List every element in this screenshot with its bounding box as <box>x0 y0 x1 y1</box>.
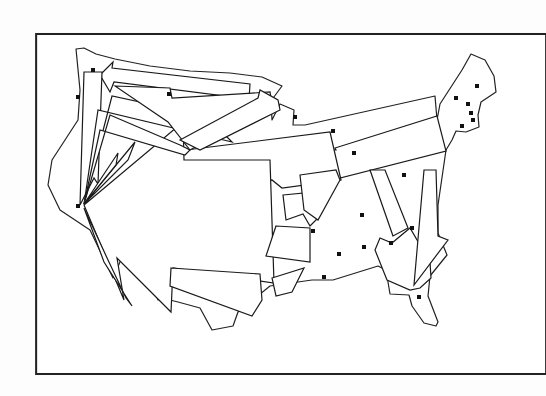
city-marker <box>331 129 335 133</box>
city-marker <box>322 275 326 279</box>
city-marker <box>389 241 393 245</box>
city-marker <box>469 111 473 115</box>
flow-map-canvas <box>0 0 546 396</box>
city-marker <box>466 102 470 106</box>
flow-map-figure <box>0 0 546 396</box>
city-marker <box>410 226 414 230</box>
city-marker <box>293 115 297 119</box>
city-marker <box>311 229 315 233</box>
city-marker <box>337 252 341 256</box>
city-marker <box>402 173 406 177</box>
city-marker <box>471 118 475 122</box>
city-marker <box>475 84 479 88</box>
city-marker <box>167 92 171 96</box>
city-marker <box>91 68 95 72</box>
city-marker <box>76 95 80 99</box>
city-marker <box>360 213 364 217</box>
city-marker <box>76 204 80 208</box>
city-marker <box>362 245 366 249</box>
city-marker <box>417 295 421 299</box>
city-marker <box>352 151 356 155</box>
city-marker <box>454 96 458 100</box>
city-marker <box>460 124 464 128</box>
